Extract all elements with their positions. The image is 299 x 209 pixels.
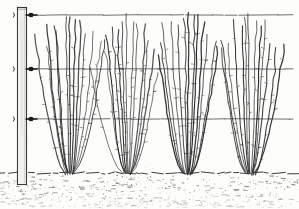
ground-dot[interactable] [91, 170, 92, 171]
ground-dot[interactable] [201, 197, 202, 198]
ground-dot[interactable] [88, 205, 89, 206]
ground-dot[interactable] [263, 207, 264, 208]
ground-dot[interactable] [152, 181, 153, 182]
ground-dot[interactable] [214, 184, 215, 185]
ground-dot[interactable] [35, 195, 36, 196]
ground-dot[interactable] [278, 196, 279, 197]
ground-dot[interactable] [44, 205, 45, 206]
ground-dot[interactable] [184, 190, 185, 191]
ground-dot[interactable] [117, 178, 118, 179]
ground-dot[interactable] [30, 178, 31, 179]
ground-dot[interactable] [139, 195, 140, 196]
ground-dot[interactable] [270, 193, 271, 194]
ground-dot[interactable] [278, 170, 279, 171]
ground-dot[interactable] [34, 171, 35, 172]
ground-dot[interactable] [46, 171, 47, 172]
ground-dot[interactable] [23, 194, 24, 195]
ground-dot[interactable] [19, 200, 20, 201]
ground-dot[interactable] [53, 200, 54, 201]
ground-dot[interactable] [137, 181, 138, 182]
ground-dot[interactable] [142, 203, 143, 204]
ground-dot[interactable] [136, 198, 137, 199]
ground-dot[interactable] [150, 176, 151, 177]
ground-dot[interactable] [233, 199, 234, 200]
ground-dot[interactable] [165, 187, 166, 188]
ground-dot[interactable] [297, 183, 298, 184]
ground-dot[interactable] [120, 192, 121, 193]
ground-dot[interactable] [127, 182, 128, 183]
ground-dot[interactable] [5, 193, 6, 194]
ground-dot[interactable] [160, 168, 161, 169]
ground-dot[interactable] [13, 180, 14, 181]
ground-dot[interactable] [259, 202, 260, 203]
ground-dot[interactable] [145, 187, 146, 188]
ground-dot[interactable] [115, 198, 116, 199]
ground-dot[interactable] [219, 175, 220, 176]
ground-dot[interactable] [66, 196, 67, 197]
ground-dot[interactable] [289, 181, 290, 182]
ground-dot[interactable] [139, 201, 140, 202]
ground-dot[interactable] [117, 195, 118, 196]
ground-dot[interactable] [263, 185, 264, 186]
ground-dot[interactable] [159, 206, 160, 207]
ground-dot[interactable] [170, 193, 171, 194]
ground-dot[interactable] [283, 180, 284, 181]
ground-dot[interactable] [79, 186, 80, 187]
ground-dot[interactable] [83, 205, 84, 206]
ground-dot[interactable] [51, 199, 52, 200]
ground-dot[interactable] [175, 185, 176, 186]
ground-dot[interactable] [199, 169, 200, 170]
ground-dot[interactable] [107, 200, 108, 201]
ground-dot[interactable] [250, 187, 251, 188]
ground-dot[interactable] [3, 168, 4, 169]
ground-dot[interactable] [174, 203, 175, 204]
ground-dot[interactable] [221, 205, 222, 206]
ground-dot[interactable] [82, 188, 83, 189]
ground-dot[interactable] [265, 205, 266, 206]
ground-dot[interactable] [1, 194, 2, 195]
ground-dot[interactable] [201, 179, 202, 180]
ground-dot[interactable] [277, 169, 278, 170]
ground-dot[interactable] [273, 195, 274, 196]
ground-dot[interactable] [43, 195, 44, 196]
ground-dot[interactable] [264, 200, 265, 201]
ground-dot[interactable] [94, 168, 95, 169]
ground-dot[interactable] [58, 197, 59, 198]
ground-dot[interactable] [104, 186, 105, 187]
ground-dot[interactable] [103, 197, 104, 198]
ground-dot[interactable] [20, 205, 21, 206]
ground-dot[interactable] [186, 204, 187, 205]
ground-dot[interactable] [4, 194, 5, 195]
ground-dot[interactable] [199, 168, 200, 169]
ground-dot[interactable] [42, 202, 43, 203]
ground-dot[interactable] [62, 182, 63, 183]
ground-dot[interactable] [245, 186, 246, 187]
ground-dot[interactable] [1, 198, 2, 199]
ground-dot[interactable] [124, 207, 125, 208]
ground-dot[interactable] [255, 199, 256, 200]
ground-dot[interactable] [13, 183, 14, 184]
ground-dot[interactable] [25, 191, 26, 192]
ground-dot[interactable] [85, 199, 86, 200]
ground-dot[interactable] [3, 186, 4, 187]
ground-dot[interactable] [116, 181, 117, 182]
ground-dot[interactable] [121, 197, 122, 198]
ground-dot[interactable] [134, 186, 135, 187]
ground-dot[interactable] [284, 198, 285, 199]
ground-dot[interactable] [232, 193, 233, 194]
ground-dot[interactable] [103, 194, 104, 195]
ground-dot[interactable] [175, 199, 176, 200]
ground-dot[interactable] [209, 180, 210, 181]
ground-dot[interactable] [190, 193, 191, 194]
ground-dot[interactable] [177, 207, 178, 208]
ground-dot[interactable] [110, 191, 111, 192]
ground-dot[interactable] [205, 191, 206, 192]
ground-dot[interactable] [99, 204, 100, 205]
ground-dot[interactable] [206, 190, 207, 191]
ground-dot[interactable] [84, 196, 85, 197]
ground-dot[interactable] [258, 184, 259, 185]
ground-dot[interactable] [109, 201, 110, 202]
ground-dot[interactable] [93, 186, 94, 187]
ground-dot[interactable] [297, 201, 298, 202]
ground-dot[interactable] [211, 194, 212, 195]
